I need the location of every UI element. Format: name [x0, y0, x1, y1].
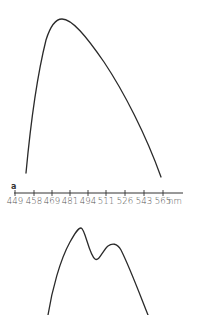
x-tick-label: 481: [62, 196, 78, 206]
x-tick-label: 449: [7, 196, 23, 206]
x-tick-label: 543: [136, 196, 152, 206]
x-tick-label: 494: [80, 196, 96, 206]
x-axis-tick-labels: 449458469481494511526543565: [7, 196, 171, 206]
x-axis-unit: nm: [168, 196, 182, 206]
curve-b: [48, 228, 148, 315]
panel-label-a: a: [11, 182, 16, 191]
spectrum-chart: a 449458469481494511526543565 nm: [0, 0, 203, 315]
curve-a: [26, 19, 161, 177]
x-tick-label: 458: [26, 196, 42, 206]
x-tick-label: 526: [117, 196, 133, 206]
x-tick-label: 511: [98, 196, 114, 206]
x-tick-label: 469: [44, 196, 60, 206]
